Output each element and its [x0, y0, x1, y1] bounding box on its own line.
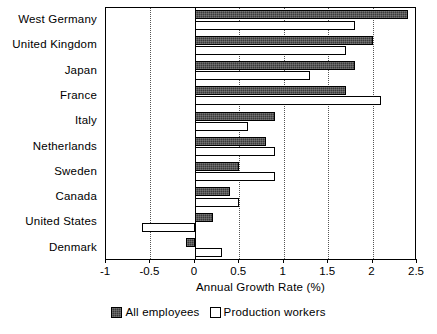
- y-axis-label-canada: Canada: [56, 184, 97, 209]
- x-tick-label: 0.5: [230, 264, 246, 278]
- bar: [186, 238, 195, 247]
- bar: [195, 162, 239, 171]
- bar-group: [106, 210, 415, 235]
- y-axis-label-italy: Italy: [75, 108, 97, 133]
- x-tick-label: 2.5: [408, 264, 424, 278]
- x-tick-label: 0: [191, 264, 197, 278]
- x-tick: [105, 259, 106, 263]
- x-tick: [238, 259, 239, 263]
- plot-area: [105, 7, 416, 260]
- x-tick-label: 1.5: [319, 264, 335, 278]
- y-axis-label-united-states: United States: [25, 209, 97, 234]
- bar: [195, 71, 311, 80]
- bar-group: [106, 59, 415, 84]
- y-axis-label-west-germany: West Germany: [18, 7, 97, 32]
- x-axis-tick-labels: -1-0.500.511.522.5: [105, 264, 416, 280]
- y-axis-label-sweden: Sweden: [54, 159, 97, 184]
- bar: [195, 248, 222, 257]
- bar-group: [106, 109, 415, 134]
- bar-group: [106, 33, 415, 58]
- bar: [195, 213, 213, 222]
- bar: [195, 112, 275, 121]
- bar-group: [106, 135, 415, 160]
- bar-group: [106, 8, 415, 33]
- bar-group: [106, 160, 415, 185]
- bar: [195, 122, 248, 131]
- bar-chart-figure: West GermanyUnited KingdomJapanFranceIta…: [0, 0, 437, 334]
- y-axis-label-netherlands: Netherlands: [33, 134, 97, 159]
- bar-group: [106, 84, 415, 109]
- x-tick: [149, 259, 150, 263]
- legend-label-production-workers: Production workers: [224, 306, 326, 318]
- bar: [195, 61, 355, 70]
- x-axis-title: Annual Growth Rate (%): [105, 281, 416, 293]
- x-tick: [194, 259, 195, 263]
- bar-group: [106, 185, 415, 210]
- x-tick: [372, 259, 373, 263]
- plot-inner: [106, 8, 415, 259]
- legend-entry-all-employees: All employees: [111, 306, 199, 318]
- x-tick: [283, 259, 284, 263]
- y-axis-label-japan: Japan: [65, 58, 97, 83]
- y-axis-category-labels: West GermanyUnited KingdomJapanFranceIta…: [0, 7, 101, 260]
- x-tick-label: 1: [280, 264, 286, 278]
- x-tick-label: 2: [368, 264, 374, 278]
- bar: [195, 36, 373, 45]
- legend-label-all-employees: All employees: [125, 306, 199, 318]
- bar: [195, 198, 239, 207]
- bar: [195, 86, 346, 95]
- bar-group: [106, 236, 415, 261]
- y-axis-label-denmark: Denmark: [49, 235, 97, 260]
- y-axis-label-united-kingdom: United Kingdom: [12, 32, 97, 57]
- legend-swatch-production-workers: [210, 307, 221, 318]
- bar: [195, 21, 355, 30]
- x-tick: [327, 259, 328, 263]
- y-axis-label-france: France: [60, 83, 97, 108]
- bar: [195, 137, 266, 146]
- x-tick-label: -0.5: [140, 264, 160, 278]
- x-tick: [416, 259, 417, 263]
- bar: [195, 147, 275, 156]
- bar: [195, 96, 382, 105]
- x-tick-label: -1: [100, 264, 110, 278]
- bar: [195, 172, 275, 181]
- bar: [195, 10, 408, 19]
- bar: [142, 223, 195, 232]
- chart-legend: All employees Production workers: [0, 306, 437, 318]
- bar: [195, 46, 346, 55]
- bar: [195, 187, 231, 196]
- legend-swatch-all-employees: [111, 307, 122, 318]
- legend-entry-production-workers: Production workers: [210, 306, 326, 318]
